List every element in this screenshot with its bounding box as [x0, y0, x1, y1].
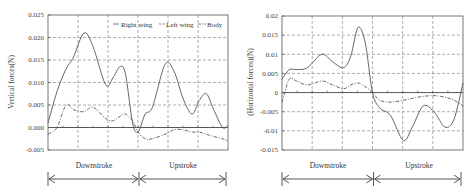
downstroke-label: Downstroke [310, 161, 347, 170]
y-tick-label: -0.01 [263, 127, 278, 135]
downstroke-label: Downstroke [76, 161, 113, 170]
y-tick-label: 0.005 [262, 70, 278, 78]
y-tick-label: 0.025 [28, 11, 44, 19]
y-tick-label: 0.020 [28, 34, 44, 42]
vertical-forces-chart: 0.0250.0200.0150.0100.0050.000-0.005 Ver… [7, 11, 228, 186]
upstroke-label: Upstroke [405, 161, 433, 170]
legend-body-label: Body [207, 21, 223, 29]
y-tick-labels: 0.0250.0200.0150.0100.0050.000-0.005 [26, 11, 51, 154]
horizontal-forces-chart: 0.020.0150.010.0050-0.005-0.01-0.015 (Ho… [246, 12, 463, 186]
grid [48, 15, 228, 150]
y-tick-label: 0.02 [266, 12, 279, 20]
legend-right-wing-label: Right wing [121, 21, 153, 29]
figure-canvas: 0.0250.0200.0150.0100.0050.000-0.005 Ver… [0, 0, 476, 191]
grid [282, 16, 463, 150]
stroke-phase-annotations: Downstroke Upstroke [48, 161, 226, 186]
y-tick-label: 0.01 [266, 51, 279, 59]
y-axis-label: (Horizontal forces)(N) [246, 48, 255, 116]
y-tick-label: -0.015 [260, 146, 279, 154]
y-axis-label: Vertical forces(N) [7, 55, 16, 109]
y-tick-label: 0.010 [28, 79, 44, 87]
y-tick-label: 0.000 [28, 124, 44, 132]
y-tick-label: 0.005 [28, 101, 44, 109]
y-tick-label: -0.005 [26, 146, 45, 154]
y-tick-label: -0.005 [260, 108, 279, 116]
legend-left-wing-label: Left wing [166, 21, 194, 29]
y-tick-label: 0.015 [28, 56, 44, 64]
y-tick-label: 0 [275, 89, 279, 97]
upstroke-label: Upstroke [169, 161, 197, 170]
legend: Right wing Left wing Body [113, 21, 223, 29]
y-tick-label: 0.015 [262, 31, 278, 39]
stroke-phase-annotations: Downstroke Upstroke [282, 161, 461, 186]
zero-line [48, 126, 228, 128]
y-tick-labels: 0.020.0150.010.0050-0.005-0.01-0.015 [260, 12, 285, 154]
